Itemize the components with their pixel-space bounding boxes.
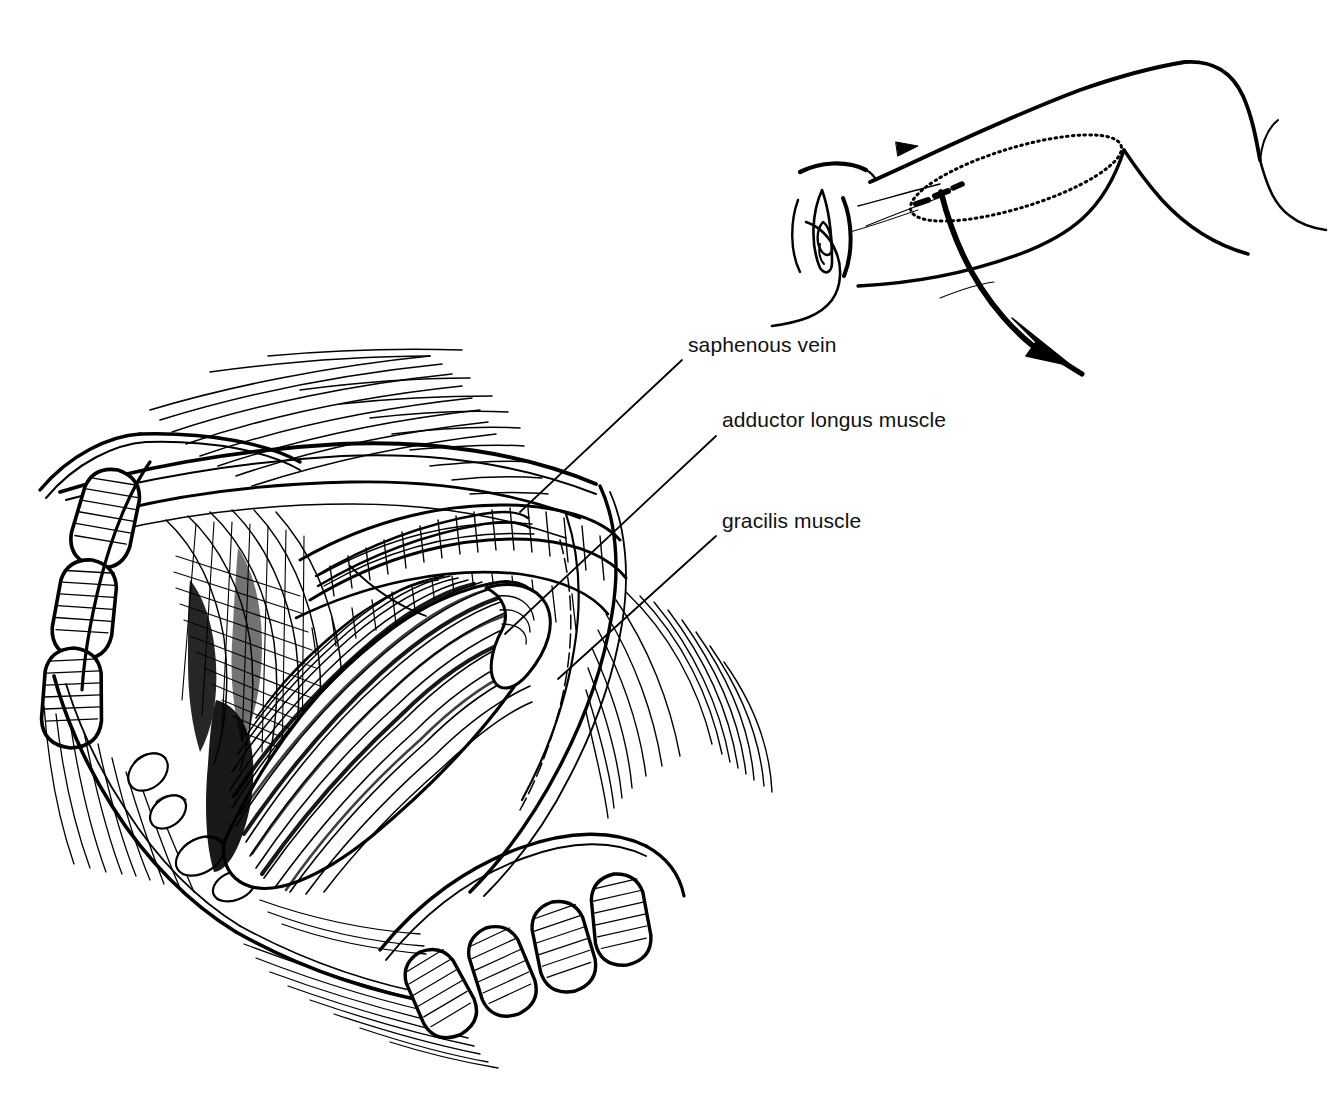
line-art-svg [0,0,1339,1105]
flap-outline-ellipse [902,117,1130,239]
illustration-canvas: saphenous vein adductor longus muscle gr… [0,0,1339,1105]
upper-fascia-hatch [150,349,548,494]
rotation-arrow [941,192,1082,374]
label-gracilis-muscle: gracilis muscle [722,509,861,533]
label-adductor-longus-muscle: adductor longus muscle [722,408,946,432]
label-saphenous-vein: saphenous vein [688,333,837,357]
retractor-lower [380,834,684,1047]
retractor-blade [48,556,121,663]
right-fascia-hatch [586,592,772,818]
leader-adductor-longus-muscle [505,436,716,634]
orientation-inset [772,62,1326,374]
retractor-blade [586,870,654,969]
operative-field [40,349,772,1068]
